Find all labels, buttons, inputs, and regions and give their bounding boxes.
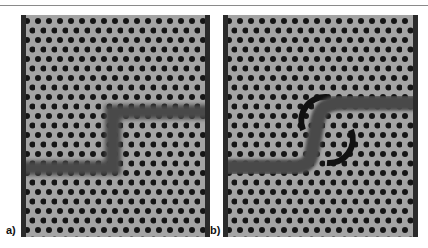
photonic-crystal-z-bend [21,15,210,237]
panel-b-image [223,15,418,237]
panel-b-label: b) [210,224,220,236]
top-rule [0,5,428,6]
panel-a-image [21,15,210,237]
panel-a-label: a) [6,224,16,236]
photonic-crystal-s-bend [223,15,418,237]
